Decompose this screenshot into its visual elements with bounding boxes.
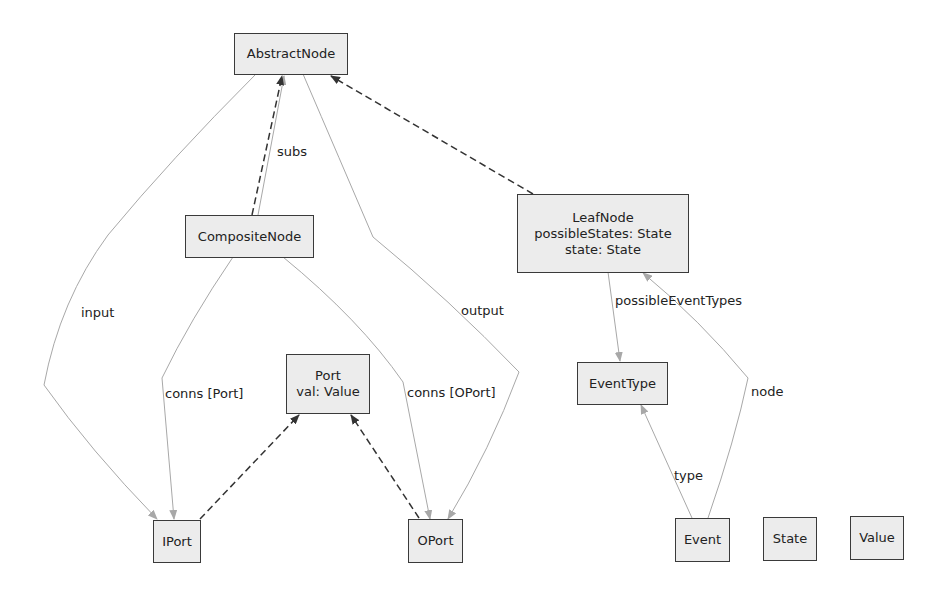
- node-iport[interactable]: IPort: [153, 520, 201, 563]
- node-title: IPort: [162, 534, 192, 550]
- node-title: Port: [315, 368, 341, 384]
- node-leaf-node[interactable]: LeafNode possibleStates: State state: St…: [517, 194, 689, 273]
- node-title: Event: [684, 532, 721, 548]
- node-title: LeafNode: [572, 210, 633, 226]
- node-oport[interactable]: OPort: [408, 519, 463, 563]
- edge-label-type: type: [674, 468, 703, 483]
- node-attribute: state: State: [565, 242, 641, 258]
- edge-label-node: node: [751, 384, 783, 399]
- edge-label-output: output: [461, 303, 504, 318]
- edge-input: [44, 74, 256, 519]
- edge-output: [303, 74, 519, 519]
- node-composite-node[interactable]: CompositeNode: [185, 215, 314, 258]
- node-attribute: val: Value: [296, 384, 359, 400]
- edge-possible-event-types: [608, 272, 620, 361]
- node-attribute: possibleStates: State: [534, 226, 671, 242]
- node-value[interactable]: Value: [850, 516, 904, 560]
- node-title: State: [773, 531, 807, 547]
- edge-oport-inherits-port: [351, 415, 419, 518]
- edge-label-conns-oport: conns [OPort]: [407, 385, 496, 400]
- edge-label-conns-port: conns [Port]: [165, 386, 243, 401]
- node-abstract-node[interactable]: AbstractNode: [234, 33, 348, 75]
- node-title: OPort: [417, 533, 453, 549]
- node-title: AbstractNode: [247, 46, 336, 62]
- edge-iport-inherits-port: [200, 415, 299, 519]
- edge-type: [641, 405, 692, 518]
- node-event-type[interactable]: EventType: [577, 362, 668, 405]
- diagram-edges: [0, 0, 949, 593]
- node-event[interactable]: Event: [675, 518, 730, 562]
- edge-leaf-inherits-abstract: [331, 76, 533, 194]
- node-title: EventType: [589, 376, 656, 392]
- edge-label-possible-event-types: possibleEventTypes: [615, 293, 742, 308]
- node-title: CompositeNode: [198, 229, 301, 245]
- node-state[interactable]: State: [763, 517, 817, 561]
- node-port[interactable]: Port val: Value: [286, 354, 370, 414]
- edge-label-input: input: [81, 305, 114, 320]
- node-title: Value: [859, 530, 895, 546]
- edge-label-subs: subs: [277, 144, 307, 159]
